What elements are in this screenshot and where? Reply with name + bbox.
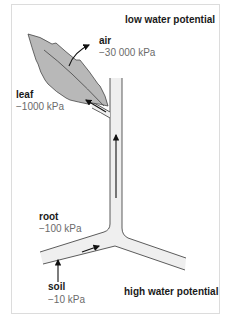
air-value: −30 000 kPa: [99, 47, 155, 59]
leaf-label: leaf: [16, 89, 33, 101]
root-value: −100 kPa: [39, 223, 82, 235]
soil-label: soil: [48, 281, 65, 293]
high-water-potential-label: high water potential: [124, 286, 218, 298]
low-water-potential-label: low water potential: [125, 14, 215, 26]
air-label: air: [99, 35, 111, 47]
leaf-value: −1000 kPa: [16, 101, 64, 113]
soil-value: −10 kPa: [48, 294, 85, 306]
leaf-shape: [28, 34, 108, 106]
root-label: root: [39, 211, 58, 223]
